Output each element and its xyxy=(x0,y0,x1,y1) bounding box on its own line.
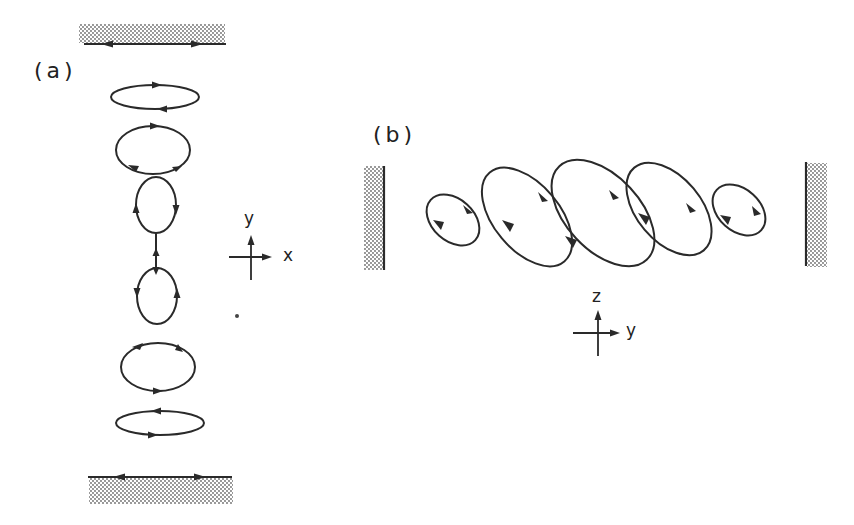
vortex-cell xyxy=(111,85,199,109)
axis-a-vertical-label: y xyxy=(244,208,254,228)
bottom-wall xyxy=(88,474,233,505)
vortex-cell xyxy=(137,268,177,324)
top-wall xyxy=(79,24,226,48)
left-wall xyxy=(364,166,384,270)
axis-b-horizontal-label: y xyxy=(626,320,636,340)
vortex-cell xyxy=(610,147,728,271)
axis-arrow-x-icon xyxy=(262,254,272,261)
vortex-cell xyxy=(121,343,195,391)
right-wall xyxy=(806,162,827,267)
axis-arrow-y-icon xyxy=(248,235,255,245)
vortex-cells-a xyxy=(111,85,204,435)
panel-a-label: (a) xyxy=(34,58,77,83)
axis-b-vertical-label: z xyxy=(592,286,601,306)
vortex-cell xyxy=(136,177,176,233)
axes-b-icon xyxy=(573,313,615,356)
panel-a xyxy=(79,24,272,504)
vortex-cell xyxy=(417,184,490,255)
axis-a-horizontal-label: x xyxy=(283,245,293,265)
axis-arrow-y-icon xyxy=(610,330,620,337)
axis-arrow-z-icon xyxy=(595,310,602,320)
panel-b xyxy=(364,141,827,356)
vortex-cell xyxy=(116,411,204,435)
panel-b-label: (b) xyxy=(373,122,416,147)
vortex-cell xyxy=(464,151,589,282)
figure-canvas xyxy=(0,0,854,525)
dot-marker xyxy=(235,314,239,318)
vortex-cell xyxy=(703,174,776,245)
